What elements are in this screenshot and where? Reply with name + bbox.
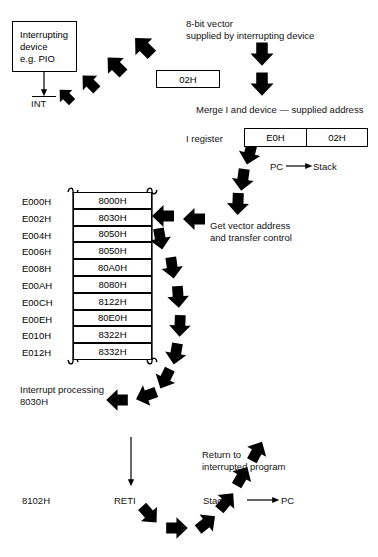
vector-table-address: E002H xyxy=(22,213,51,224)
return-caption-line-2: interrupted program xyxy=(202,461,285,473)
vector-table-address: E008H xyxy=(22,263,51,274)
reti-instruction: RETI xyxy=(114,495,136,507)
vector-table-address: E00CH xyxy=(22,297,53,308)
device-line-1: Interrupting xyxy=(20,29,68,42)
vector-caption-line-2: supplied by interrupting device xyxy=(186,30,314,42)
vector-caption-line-1: 8-bit vector xyxy=(186,18,233,30)
vector-table-address: E010H xyxy=(22,330,51,341)
pc-label: PC xyxy=(270,161,283,173)
merge-caption: Merge I and device — supplied address xyxy=(196,104,363,116)
vector-value-box: 02H xyxy=(156,70,220,88)
vector-table-row: 8050H xyxy=(73,242,152,259)
vector-table-row: 8322H xyxy=(73,326,152,343)
vector-table-row: 8122H xyxy=(73,293,152,310)
vector-table-row: 8000H xyxy=(73,192,152,209)
vector-table-row: 8050H xyxy=(73,226,152,243)
i-register-label: I register xyxy=(186,133,223,145)
fetch-line-2: and transfer control xyxy=(210,232,292,244)
int-label: INT xyxy=(31,98,46,110)
return-address: 8102H xyxy=(22,495,50,507)
device-line-3: e.g. PIO xyxy=(20,53,55,66)
vector-table-row: 80E0H xyxy=(73,310,152,327)
interrupt-sequence-diagram: Interrupting device e.g. PIO INT 8-bit v… xyxy=(0,0,378,557)
vector-table-address: E012H xyxy=(22,347,51,358)
isr-line-1: Interrupt processing xyxy=(20,384,104,396)
fetch-line-1: Get vector address xyxy=(210,220,290,232)
interrupting-device-box: Interrupting device e.g. PIO xyxy=(12,21,77,72)
i-register-high-byte: E0H xyxy=(245,129,306,146)
arrows-register-to-fetch xyxy=(227,141,263,216)
vector-table-row: 8080H xyxy=(73,276,152,293)
device-line-2: device xyxy=(20,41,47,54)
vector-table-address: E00EH xyxy=(22,314,52,325)
vector-table-row: 8332H xyxy=(73,343,152,360)
i-register-low-byte: 02H xyxy=(306,129,367,146)
pop-pc-label: PC xyxy=(281,495,294,507)
vector-table-address: E004H xyxy=(22,230,51,241)
pop-stack-label: Stack xyxy=(203,495,227,507)
vector-table-row: 8030H xyxy=(73,209,152,226)
vector-table-address: E000H xyxy=(22,196,51,207)
stack-label: Stack xyxy=(313,161,337,173)
arrows-fetch-to-table xyxy=(152,205,205,230)
arrows-vector-down xyxy=(250,43,273,96)
i-register-box: E0H 02H xyxy=(244,128,368,147)
return-caption-line-1: Return to xyxy=(202,449,241,461)
vector-table-address: E006H xyxy=(22,246,51,257)
isr-line-2: 8030H xyxy=(20,396,48,408)
vector-table-address: E00AH xyxy=(22,280,52,291)
vector-table-row: 80A0H xyxy=(73,259,152,276)
